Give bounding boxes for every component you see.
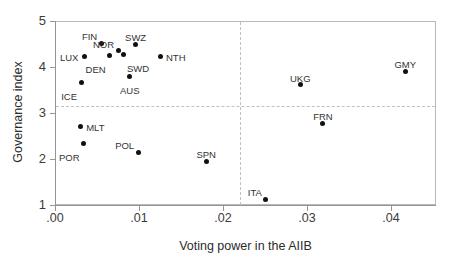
x-tick-label: .03 <box>287 211 327 225</box>
data-point-label: ICE <box>37 92 77 102</box>
y-axis-title: Governance index <box>11 42 25 182</box>
y-axis-line <box>55 21 56 206</box>
y-tick-mark <box>50 67 55 68</box>
data-point-label: NOR <box>74 40 114 50</box>
y-tick-label: 5 <box>22 13 46 28</box>
data-point-marker[interactable] <box>107 53 112 58</box>
data-point-label: NTH <box>166 53 186 63</box>
x-tick-label: .02 <box>203 211 243 225</box>
data-point-label: ITA <box>222 188 262 198</box>
data-point-label: DEN <box>66 65 106 75</box>
data-point-marker[interactable] <box>81 141 86 146</box>
data-point-label: FRN <box>303 112 343 122</box>
data-point-marker[interactable] <box>79 80 84 85</box>
x-tick-label: .01 <box>119 211 159 225</box>
horizontal-reference-line <box>56 106 435 107</box>
x-axis-line <box>55 205 436 206</box>
data-point-label: SWD <box>127 64 149 74</box>
data-point-label: POR <box>40 153 80 163</box>
data-point-label: LUX <box>38 53 78 63</box>
data-point-marker[interactable] <box>158 54 163 59</box>
data-point-marker[interactable] <box>121 52 126 57</box>
data-point-label: GMY <box>385 60 425 70</box>
vertical-reference-line <box>240 22 241 205</box>
y-tick-label: 1 <box>22 197 46 212</box>
data-point-label: SWZ <box>116 33 156 43</box>
x-tick-label: .04 <box>371 211 411 225</box>
data-point-marker[interactable] <box>127 74 132 79</box>
y-tick-mark <box>50 113 55 114</box>
data-point-marker[interactable] <box>116 48 121 53</box>
data-point-label: SPN <box>186 150 226 160</box>
data-point-label: AUS <box>110 86 150 96</box>
y-tick-mark <box>50 21 55 22</box>
y-tick-label: 3 <box>22 105 46 120</box>
x-tick-label: .00 <box>35 211 75 225</box>
data-point-label: MLT <box>86 123 104 133</box>
x-axis-title: Voting power in the AIIB <box>55 239 436 253</box>
data-point-marker[interactable] <box>136 150 141 155</box>
data-point-label: POL <box>94 141 134 151</box>
data-point-label: UKG <box>280 74 320 84</box>
scatter-chart-figure: 12345.00.01.02.03.04 LUXICEFINDENNORSWDA… <box>0 0 450 266</box>
